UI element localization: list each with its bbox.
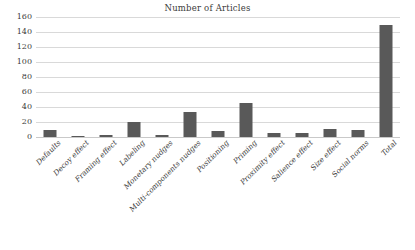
bars-layer: [36, 17, 400, 137]
bar-slot: [260, 17, 288, 137]
x-axis-tick-label: Total: [380, 139, 398, 159]
bar-slot: [372, 17, 400, 137]
x-axis-tick: Total: [380, 139, 399, 158]
bar-slot: [148, 17, 176, 137]
y-axis-tick-label: 100: [2, 58, 32, 66]
bar-chart: Number of Articles 020406080100120140160…: [0, 0, 415, 250]
bar-slot: [120, 17, 148, 137]
bar-slot: [204, 17, 232, 137]
bar-slot: [92, 17, 120, 137]
bar[interactable]: [352, 130, 365, 138]
y-axis-tick-label: 60: [2, 88, 32, 96]
bar[interactable]: [268, 133, 281, 138]
bar-slot: [344, 17, 372, 137]
x-axis-tick: Priming: [232, 139, 259, 166]
y-axis-tick-label: 160: [2, 13, 32, 21]
bar[interactable]: [240, 103, 253, 138]
bar[interactable]: [100, 135, 113, 137]
bar[interactable]: [212, 131, 225, 137]
y-axis-tick-label: 80: [2, 73, 32, 81]
bar[interactable]: [380, 25, 393, 138]
bar[interactable]: [128, 122, 141, 137]
bar[interactable]: [72, 136, 85, 138]
bar[interactable]: [44, 130, 57, 138]
bar-slot: [176, 17, 204, 137]
bar-slot: [316, 17, 344, 137]
bar-slot: [288, 17, 316, 137]
gridline: [36, 137, 400, 138]
bar-slot: [36, 17, 64, 137]
y-axis-tick-label: 40: [2, 103, 32, 111]
bar[interactable]: [296, 133, 309, 138]
bar-slot: [64, 17, 92, 137]
y-axis-tick-label: 140: [2, 28, 32, 36]
y-axis-tick-label: 0: [2, 133, 32, 141]
bar[interactable]: [156, 135, 169, 137]
x-axis-tick-label: Priming: [232, 139, 258, 167]
bar[interactable]: [184, 112, 197, 138]
y-axis-tick-label: 20: [2, 118, 32, 126]
bar-slot: [232, 17, 260, 137]
y-axis-tick-label: 120: [2, 43, 32, 51]
x-axis: DefaultsDecoy effectFraming effectLabeli…: [36, 139, 400, 249]
bar[interactable]: [324, 129, 337, 137]
chart-title: Number of Articles: [0, 3, 415, 13]
